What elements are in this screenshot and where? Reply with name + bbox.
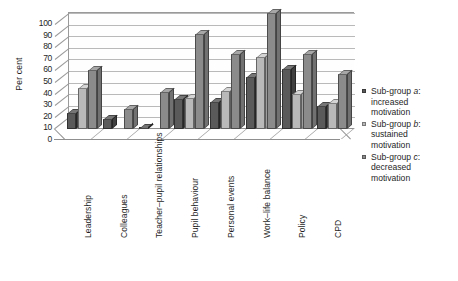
x-axis-tick [269,128,283,139]
legend-label-suffix: : [418,119,420,129]
bar-side-face [276,9,281,129]
bar[interactable] [67,113,76,129]
bar[interactable] [231,54,240,129]
bar-front-face [78,88,87,129]
x-axis-category-labels: LeadershipColleaguesTeacher–pupil relati… [54,142,374,252]
bar-group [103,12,141,129]
x-axis-category-label: Colleagues [120,194,129,238]
legend-label-suffix: : [418,86,420,96]
legend-label-prefix: Sub-group [371,86,414,96]
bar-front-face [282,69,291,129]
bar-front-face [124,109,133,129]
bar[interactable] [139,128,148,129]
bar-group [317,12,355,129]
floor-front-edge [54,139,340,140]
bar[interactable] [267,13,276,129]
y-axis-tick-label: 20 [26,112,52,121]
floor-left-edge [54,128,65,139]
bar-front-face [246,77,255,129]
bar[interactable] [210,102,219,129]
x-axis-category-label: Policy [298,215,307,238]
x-axis-tick [198,128,212,139]
bar-side-face [347,70,352,129]
bar[interactable] [221,91,230,129]
y-axis-tick-label: 90 [26,31,52,40]
legend-swatch [362,122,366,126]
bar[interactable] [88,70,97,129]
bar-front-face [67,113,76,129]
bar[interactable] [303,54,312,129]
bar[interactable] [338,74,347,129]
chart-figure: Per cent 0102030405060708090100 Leadersh… [0,0,458,281]
bar[interactable] [124,109,133,129]
bar[interactable] [185,98,194,129]
bar-front-face [328,103,337,129]
bar-side-face [204,30,209,129]
legend-item[interactable]: Sub-group c:decreasedmotivation [362,152,456,184]
bar-front-face [103,119,112,129]
legend-swatch [362,155,366,159]
y-axis-tick-label: 100 [26,19,52,28]
bar-front-face [88,70,97,129]
bar-side-face [312,49,317,129]
bar[interactable] [160,92,169,129]
bar-group [282,12,320,129]
x-axis-tick [126,128,140,139]
bar-front-face [231,54,240,129]
x-axis-tick [234,128,248,139]
chart-legend: Sub-group a:increasedmotivationSub-group… [362,86,456,184]
bar-front-face [292,94,301,129]
bar-front-face [303,54,312,129]
y-axis-tick-labels: 0102030405060708090100 [26,12,52,136]
x-axis-tick [162,128,176,139]
legend-item[interactable]: Sub-group b:sustainedmotivation [362,119,456,151]
bar[interactable] [328,103,337,129]
y-axis-tick-label: 40 [26,89,52,98]
legend-swatch [362,89,366,93]
bar[interactable] [195,34,204,129]
y-axis-tick-label: 0 [26,135,52,144]
bar[interactable] [246,77,255,129]
bar-side-face [240,49,245,129]
y-axis-tick-label: 60 [26,65,52,74]
bar-groups [54,12,354,129]
bar[interactable] [282,69,291,129]
bar-front-face [221,91,230,129]
x-axis-tick [305,128,319,139]
bar[interactable] [103,119,112,129]
y-axis-tick-label: 10 [26,123,52,132]
legend-label-line3: motivation [371,140,410,150]
y-axis-tick-label: 70 [26,54,52,63]
legend-label-line2: decreased [371,162,411,172]
x-axis-category-label: Personal events [227,176,236,238]
legend-item[interactable]: Sub-group a:increasedmotivation [362,86,456,118]
y-axis-tick-label: 80 [26,42,52,51]
bar[interactable] [292,94,301,129]
x-axis-category-label: Pupil behaviour [191,178,200,238]
legend-label-suffix: : [418,152,420,162]
bar-group [246,12,284,129]
legend-label-line3: motivation [371,173,410,183]
legend-label: Sub-group b:sustainedmotivation [371,119,421,150]
bar[interactable] [174,99,183,129]
bar[interactable] [256,57,265,129]
bar-side-face [133,105,138,129]
bar-front-face [267,13,276,129]
bar-front-face [185,98,194,129]
plot-area [54,12,354,140]
legend-label: Sub-group a:increasedmotivation [371,86,421,117]
legend-label-prefix: Sub-group [371,152,414,162]
x-axis-category-label: Leadership [84,195,93,238]
x-axis-tick [91,128,105,139]
bar-group [139,12,177,129]
bar-front-face [210,102,219,129]
x-axis-category-label: Teacher–pupil relationships [155,132,164,238]
y-axis-title: Per cent [14,44,24,104]
x-axis-category-label: CPD [334,220,343,238]
bar[interactable] [78,88,87,129]
bar-side-face [97,66,102,129]
legend-label-prefix: Sub-group [371,119,414,129]
legend-label: Sub-group c:decreasedmotivation [371,152,420,183]
bar[interactable] [317,106,326,129]
y-axis-tick-label: 30 [26,100,52,109]
